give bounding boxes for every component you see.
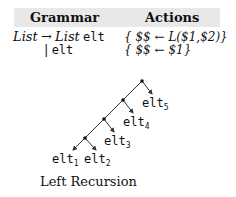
leaf-elt-2: elt2 — [84, 152, 111, 168]
leaf-elt-3: elt3 — [104, 134, 131, 150]
leaf-elt-4: elt4 — [123, 115, 150, 131]
figure-caption: Left Recursion — [40, 174, 137, 189]
parse-tree: elt1 elt2 elt3 elt4 elt5 — [0, 0, 236, 197]
leaf-elt-1: elt1 — [52, 152, 79, 168]
leaf-elt-5: elt5 — [142, 96, 169, 112]
